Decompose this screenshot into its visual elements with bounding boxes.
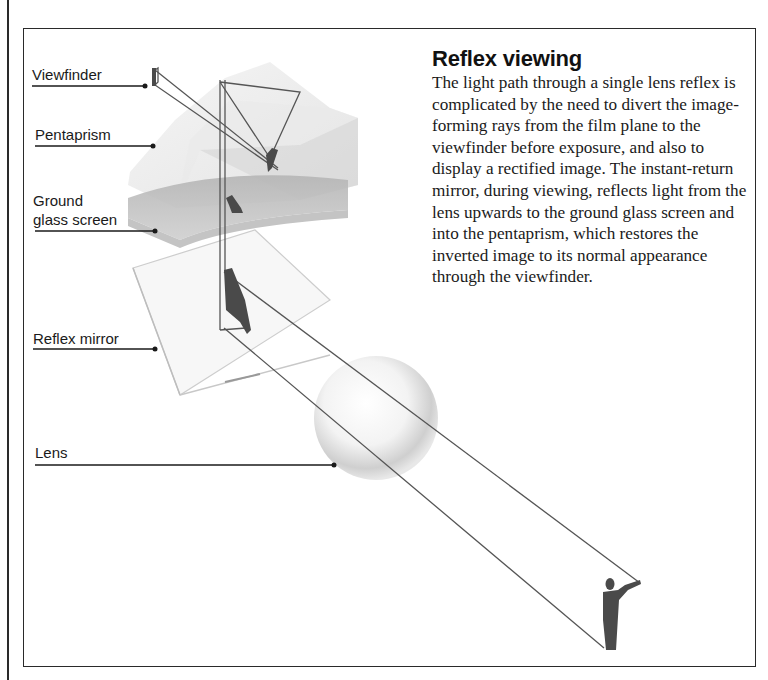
subject-figure xyxy=(603,578,641,650)
label-lens: Lens xyxy=(35,444,68,462)
label-viewfinder: Viewfinder xyxy=(32,66,102,84)
label-ground-glass-line2: glass screen xyxy=(33,211,117,229)
label-reflex-mirror: Reflex mirror xyxy=(33,330,119,348)
label-ground-glass-line1: Ground xyxy=(33,192,83,210)
article-body: The light path through a single lens ref… xyxy=(432,72,752,288)
label-pentaprism: Pentaprism xyxy=(35,126,111,144)
article-title: Reflex viewing xyxy=(432,46,582,72)
